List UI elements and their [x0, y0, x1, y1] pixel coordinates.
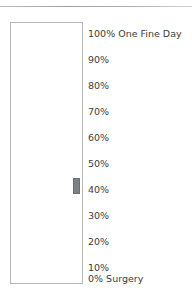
axis-tick-100: 100% One Fine Day: [88, 27, 182, 41]
axis-tick-0-percent: 0%: [88, 273, 103, 284]
axis-tick-60: 60%: [88, 131, 109, 145]
axis-label-stack: 100% One Fine Day 90% 80% 70% 60% 50% 40…: [88, 22, 192, 284]
axis-tick-20: 20%: [88, 235, 109, 249]
axis-tick-0-label: Surgery: [103, 273, 143, 284]
chart-page: 100% One Fine Day 90% 80% 70% 60% 50% 40…: [0, 0, 192, 304]
axis-tick-90-percent: 90%: [88, 54, 109, 65]
axis-tick-100-label: One Fine Day: [115, 28, 181, 39]
axis-tick-40-percent: 40%: [88, 184, 109, 195]
axis-tick-100-percent: 100%: [88, 28, 115, 39]
axis-tick-60-percent: 60%: [88, 132, 109, 143]
plot-area: [10, 22, 83, 284]
value-marker: [73, 178, 80, 194]
axis-tick-50-percent: 50%: [88, 158, 109, 169]
axis-tick-80: 80%: [88, 79, 109, 93]
top-rule-divider: [0, 6, 192, 7]
axis-tick-20-percent: 20%: [88, 236, 109, 247]
axis-tick-50: 50%: [88, 157, 109, 171]
axis-tick-0: 0% Surgery: [88, 272, 143, 286]
axis-tick-90: 90%: [88, 53, 109, 67]
axis-tick-40: 40%: [88, 183, 109, 197]
axis-tick-30-percent: 30%: [88, 210, 109, 221]
axis-tick-80-percent: 80%: [88, 80, 109, 91]
axis-tick-70: 70%: [88, 105, 109, 119]
axis-tick-70-percent: 70%: [88, 106, 109, 117]
axis-tick-30: 30%: [88, 209, 109, 223]
